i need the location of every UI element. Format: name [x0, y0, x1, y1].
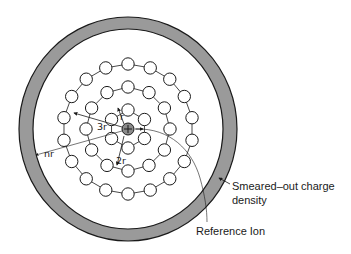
ion-circle	[66, 155, 78, 167]
ion-circle	[144, 62, 156, 74]
3r-label: 3r	[97, 121, 107, 133]
ion-circle	[158, 144, 170, 156]
ion-circle	[80, 73, 92, 85]
ion-circle	[138, 113, 150, 125]
ion-circle	[80, 123, 92, 135]
smeared-charge-label-2: density	[232, 194, 267, 206]
ion-sphere-diagram	[0, 0, 351, 254]
reference-ion-label: Reference Ion	[196, 225, 265, 237]
ion-circle	[101, 159, 113, 171]
reference-ion	[122, 123, 134, 135]
2r-label: 2r	[116, 155, 126, 167]
ion-circle	[80, 173, 92, 185]
ion-circle	[122, 81, 134, 93]
nr-label: nr	[44, 148, 54, 160]
ion-circle	[178, 90, 190, 102]
ion-circle	[186, 134, 198, 146]
ion-circle	[138, 132, 150, 144]
ion-circle	[85, 102, 97, 114]
ion-circle	[143, 159, 155, 171]
r-label: r	[120, 111, 124, 123]
ion-circle	[100, 184, 112, 196]
ion-circle	[122, 142, 134, 154]
ion-circle	[164, 173, 176, 185]
ion-circle	[58, 112, 70, 124]
ion-circle	[122, 58, 134, 70]
ion-circle	[186, 112, 198, 124]
ion-circle	[158, 102, 170, 114]
ion-circle	[66, 90, 78, 102]
ion-circle	[164, 73, 176, 85]
ion-circle	[122, 188, 134, 200]
ion-circle	[143, 86, 155, 98]
ion-circle	[164, 123, 176, 135]
ion-circle	[144, 184, 156, 196]
ion-circle	[85, 144, 97, 156]
ion-circle	[178, 155, 190, 167]
ion-circle	[101, 86, 113, 98]
ion-circle	[58, 134, 70, 146]
ion-circle	[100, 62, 112, 74]
smeared-charge-label: Smeared–out charge	[232, 180, 335, 192]
